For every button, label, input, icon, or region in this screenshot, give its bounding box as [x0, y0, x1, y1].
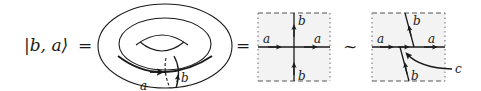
square-2-label-c: c	[455, 62, 462, 76]
equivalence-tilde: ~	[343, 36, 357, 56]
square-1-label-a-left: a	[263, 32, 270, 46]
ket-text: |b, a⟩	[24, 35, 68, 55]
torus-outer-ellipse	[98, 4, 232, 88]
cycle-b-front	[174, 56, 179, 88]
square-2-label-a-right: a	[428, 32, 435, 46]
torus-equivalence-diagram: |b, a⟩ = a b = a a b b ~	[0, 0, 481, 91]
torus	[98, 4, 232, 88]
square-1-label-a-right: a	[314, 32, 321, 46]
equals-sign-1: =	[78, 35, 92, 55]
square-1: a a b b	[258, 13, 330, 83]
torus-hole-top	[136, 35, 188, 45]
equals-sign-2: =	[236, 35, 250, 55]
square-1-label-b-top: b	[298, 14, 306, 28]
ket-label: |b, a⟩	[24, 35, 68, 55]
torus-label-b: b	[181, 71, 189, 85]
square-2-label-b-bottom: b	[411, 69, 419, 83]
square-2-label-a-left: a	[377, 32, 384, 46]
torus-label-a: a	[140, 79, 147, 91]
torus-inner-ellipse	[119, 18, 211, 70]
torus-hole-bottom	[140, 42, 184, 51]
square-2-label-b-top: b	[413, 14, 421, 28]
cycle-b-back-dashed	[165, 58, 170, 88]
square-1-label-b-bottom: b	[298, 69, 306, 83]
square-2: a a b b c	[372, 13, 462, 83]
